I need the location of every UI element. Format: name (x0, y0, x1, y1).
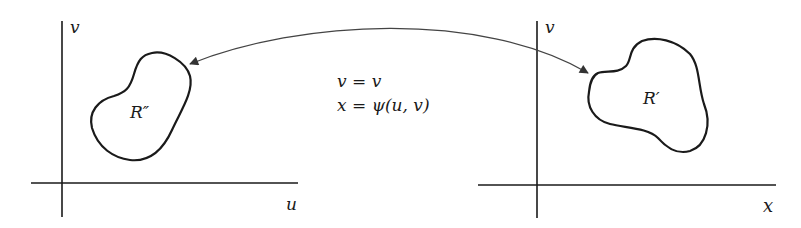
left-v-axis-label: v (70, 17, 80, 37)
equation-1: v = v (337, 71, 382, 91)
left-u-axis-label: u (286, 194, 297, 214)
mapping-arrow (190, 28, 588, 73)
left-plane: v u R″ (31, 17, 298, 217)
region-r-double-prime-label: R″ (129, 102, 150, 122)
right-plane: v x R′ (478, 17, 776, 218)
transformation-diagram: v u R″ v x R′ v = v x = ψ(u, v) (0, 0, 801, 228)
right-v-axis-label: v (545, 17, 555, 37)
mapping-equations: v = v x = ψ(u, v) (337, 71, 430, 115)
right-x-axis-label: x (763, 195, 773, 216)
equation-2: x = ψ(u, v) (337, 95, 430, 115)
region-r-prime-label: R′ (642, 88, 660, 108)
